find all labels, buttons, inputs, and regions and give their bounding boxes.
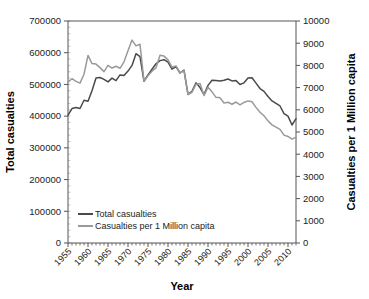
legend-label-2: Casualties per 1 Million capita: [95, 221, 215, 231]
x-tick-label: 1975: [132, 246, 153, 267]
x-axis-ticks: 1955196019651970197519801985199019952000…: [52, 243, 296, 268]
chart-container: 0100000200000300000400000500000600000700…: [0, 0, 369, 299]
x-tick-label: 1995: [212, 246, 233, 267]
x-tick-label: 1955: [52, 246, 73, 267]
y-tick-label-left: 300000: [29, 142, 61, 153]
y-axis-right-title: Casualties per 1 Million capita: [345, 53, 357, 211]
y-axis-left-ticks: 0100000200000300000400000500000600000700…: [29, 15, 70, 248]
y-tick-label-right: 1000: [303, 215, 324, 226]
y-tick-label-right: 2000: [303, 193, 324, 204]
y-tick-label-right: 5000: [303, 126, 324, 137]
y-tick-label-right: 10000: [303, 15, 329, 26]
y-tick-label-right: 3000: [303, 171, 324, 182]
x-tick-label: 2010: [272, 246, 293, 267]
x-tick-label: 1970: [112, 246, 133, 267]
y-tick-label-right: 4000: [303, 149, 324, 160]
y-tick-label-right: 0: [303, 237, 308, 248]
x-tick-label: 1985: [172, 246, 193, 267]
y-axis-right-ticks: 0100020003000400050006000700080009000100…: [296, 15, 329, 248]
y-tick-label-left: 500000: [29, 79, 61, 90]
x-tick-label: 2005: [252, 246, 273, 267]
y-tick-label-left: 600000: [29, 47, 61, 58]
legend-label-1: Total casualties: [95, 209, 157, 219]
x-tick-label: 1960: [72, 246, 93, 267]
x-tick-label: 2000: [232, 246, 253, 267]
y-tick-label-left: 0: [56, 237, 61, 248]
y-axis-left-title: Total casualties: [4, 91, 16, 173]
y-tick-label-right: 6000: [303, 104, 324, 115]
x-tick-label: 1965: [92, 246, 113, 267]
x-axis-title: Year: [170, 280, 194, 292]
y-tick-label-left: 100000: [29, 206, 61, 217]
y-tick-label-right: 9000: [303, 38, 324, 49]
x-tick-label: 1990: [192, 246, 213, 267]
y-tick-label-left: 400000: [29, 110, 61, 121]
y-tick-label-right: 8000: [303, 60, 324, 71]
line-chart: 0100000200000300000400000500000600000700…: [0, 0, 369, 299]
y-tick-label-left: 700000: [29, 15, 61, 26]
y-tick-label-left: 200000: [29, 174, 61, 185]
x-tick-label: 1980: [152, 246, 173, 267]
y-tick-label-right: 7000: [303, 82, 324, 93]
